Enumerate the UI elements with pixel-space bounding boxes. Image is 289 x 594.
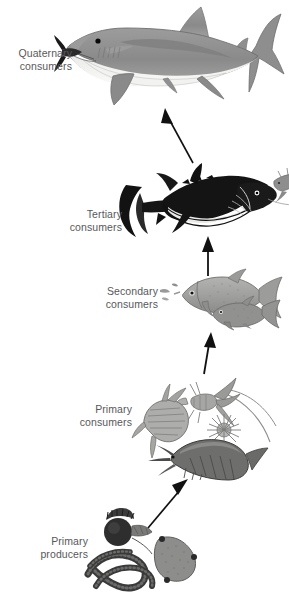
great-white-shark-icon	[60, 2, 289, 120]
label-primary-producers: Primary producers	[14, 535, 88, 560]
label-quaternary-consumers: Quaternary consumers	[4, 47, 72, 72]
arrow-tertiary-to-quaternary	[155, 105, 205, 167]
dinoflagellate-icon	[104, 508, 152, 554]
fish-lower-eye-icon	[220, 311, 222, 313]
herring-fish-icon	[158, 268, 289, 330]
shark-eye-icon	[95, 38, 100, 43]
level-primary-producers	[86, 508, 206, 592]
level-secondary	[158, 268, 289, 330]
diatom-chain-icon	[88, 552, 152, 588]
fish-upper-eye-icon	[190, 291, 193, 294]
food-particles-icon	[160, 284, 180, 301]
food-chain-diagram: Quaternary consumers	[0, 0, 289, 594]
triangular-diatom-icon	[154, 536, 197, 583]
shrimp-icon	[148, 440, 268, 480]
level-quaternary	[60, 2, 289, 120]
level-primary-consumers	[130, 368, 289, 480]
tuna-eye-icon	[256, 192, 259, 195]
bluefin-tuna-icon	[118, 163, 289, 247]
zooplankton-icon	[130, 368, 289, 480]
phytoplankton-icon	[86, 508, 206, 592]
label-tertiary-consumers: Tertiary consumers	[48, 208, 122, 233]
label-secondary-consumers: Secondary consumers	[84, 285, 158, 310]
label-primary-consumers: Primary consumers	[58, 403, 132, 428]
level-tertiary	[118, 163, 289, 247]
